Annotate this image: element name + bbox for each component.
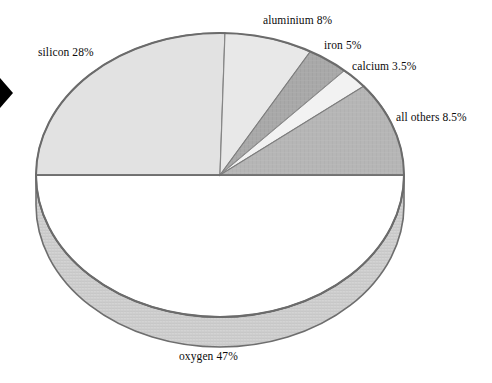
pie-label-aluminium: aluminium 8% [263, 14, 332, 27]
pie-label-calcium: calcium 3.5% [352, 60, 416, 73]
pie-label-all-others: all others 8.5% [396, 111, 467, 124]
pie-label-silicon: silicon 28% [38, 46, 94, 59]
left-arrow-marker-icon [0, 78, 13, 108]
pie-label-oxygen: oxygen 47% [179, 350, 238, 363]
pie-label-iron: iron 5% [324, 39, 361, 52]
pie-chart-figure: silicon 28% aluminium 8% iron 5% calcium… [0, 0, 492, 383]
